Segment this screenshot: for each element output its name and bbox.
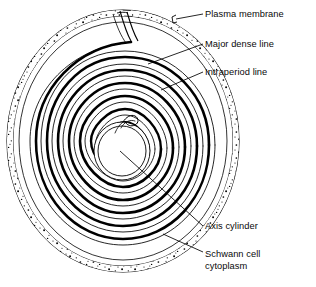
leader-plasma-membrane	[176, 14, 203, 19]
axis-cylinder-core	[94, 122, 150, 180]
label-schwann-cell-cytoplasm-line1: Schwann cell	[205, 249, 260, 260]
figure-canvas: Plasma membrane Major dense line Intrape…	[0, 0, 316, 287]
label-intraperiod-line: Intraperiod line	[205, 67, 267, 78]
label-schwann-cell-cytoplasm-line2: cytoplasm	[205, 261, 247, 272]
label-plasma-membrane: Plasma membrane	[205, 9, 284, 20]
label-axis-cylinder: Axis cylinder	[205, 221, 258, 232]
label-major-dense-line: Major dense line	[205, 39, 274, 50]
